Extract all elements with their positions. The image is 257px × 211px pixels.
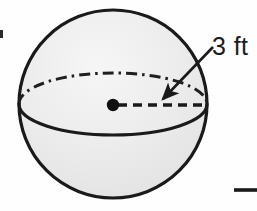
edge-tick-mark [0,30,3,38]
radius-measure-label: 3 ft [212,34,248,59]
center-dot [107,99,119,111]
sphere-figure: 3 ft [0,0,257,211]
